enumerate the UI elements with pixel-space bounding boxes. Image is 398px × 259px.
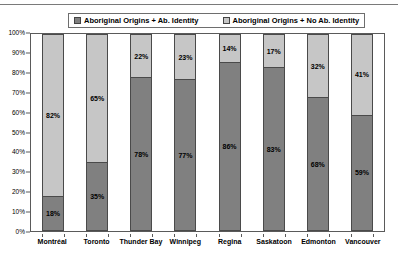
x-axis-tick-mark bbox=[263, 234, 264, 237]
bar-value-label: 32% bbox=[311, 63, 325, 70]
legend-entry-no-ab-identity: Aboriginal Origins + No Ab. Identity bbox=[223, 17, 360, 25]
bar-segment-ab-identity[interactable]: 18% bbox=[42, 196, 64, 231]
x-axis-tick-mark bbox=[108, 234, 109, 237]
stacked-bar-column[interactable]: 32%68% bbox=[307, 34, 329, 231]
x-axis-tick-mark bbox=[174, 234, 175, 237]
x-axis-tick-mark bbox=[373, 234, 374, 237]
top-divider-rule bbox=[0, 4, 398, 5]
x-axis: MontréalTorontoThunder BayWinnipegRegina… bbox=[30, 234, 385, 256]
plot-area: 82%18%65%35%22%78%23%77%14%86%17%83%32%6… bbox=[30, 33, 385, 232]
stacked-bar-column[interactable]: 82%18% bbox=[42, 34, 64, 231]
bar-value-label: 22% bbox=[134, 53, 148, 60]
bar-value-label: 68% bbox=[311, 161, 325, 168]
x-axis-tick-label: Edmonton bbox=[296, 234, 340, 245]
bar-value-label: 14% bbox=[223, 45, 237, 52]
bar-segment-ab-identity[interactable]: 86% bbox=[219, 62, 241, 231]
bar-segment-no-ab-identity[interactable]: 22% bbox=[130, 34, 152, 77]
legend-label-ab-identity: Aboriginal Origins + Ab. Identity bbox=[84, 17, 199, 25]
x-axis-tick-mark bbox=[64, 234, 65, 237]
bar-segment-no-ab-identity[interactable]: 32% bbox=[307, 34, 329, 97]
bar-value-label: 78% bbox=[134, 151, 148, 158]
y-axis-tick-label: 50% bbox=[12, 129, 25, 136]
bar-segment-no-ab-identity[interactable]: 14% bbox=[219, 34, 241, 62]
x-axis-tick-mark bbox=[285, 234, 286, 237]
bar-value-label: 65% bbox=[90, 95, 104, 102]
bar-segment-ab-identity[interactable]: 77% bbox=[174, 79, 196, 231]
x-axis-tick-mark bbox=[329, 234, 330, 237]
bar-value-label: 77% bbox=[178, 152, 192, 159]
y-axis-tick-label: 90% bbox=[12, 50, 25, 57]
bar-value-label: 86% bbox=[223, 143, 237, 150]
legend-swatch-icon-no-ab-identity bbox=[223, 17, 230, 24]
bar-segment-no-ab-identity[interactable]: 82% bbox=[42, 34, 64, 196]
x-axis-tick-label: Saskatoon bbox=[252, 234, 296, 245]
stacked-bar-column[interactable]: 22%78% bbox=[130, 34, 152, 231]
bar-segment-ab-identity[interactable]: 78% bbox=[130, 77, 152, 231]
x-axis-tick-mark bbox=[152, 234, 153, 237]
bar-value-label: 83% bbox=[267, 146, 281, 153]
bar-value-label: 17% bbox=[267, 48, 281, 55]
bar-segment-no-ab-identity[interactable]: 65% bbox=[86, 34, 108, 162]
stacked-bar-column[interactable]: 17%83% bbox=[263, 34, 285, 231]
bar-value-label: 41% bbox=[355, 71, 369, 78]
x-axis-tick-label: Regina bbox=[208, 234, 252, 245]
y-axis-tick-label: 30% bbox=[12, 169, 25, 176]
x-axis-tick-mark bbox=[307, 234, 308, 237]
bar-value-label: 35% bbox=[90, 193, 104, 200]
y-axis-tick-label: 40% bbox=[12, 149, 25, 156]
x-axis-tick-mark bbox=[196, 234, 197, 237]
chart-legend: Aboriginal Origins + Ab. Identity Aborig… bbox=[68, 13, 365, 28]
bar-segment-no-ab-identity[interactable]: 41% bbox=[351, 34, 373, 115]
stacked-bar-column[interactable]: 65%35% bbox=[86, 34, 108, 231]
x-axis-tick-mark bbox=[130, 234, 131, 237]
bar-segment-ab-identity[interactable]: 68% bbox=[307, 97, 329, 231]
y-axis-tick-label: 70% bbox=[12, 89, 25, 96]
legend-swatch-icon-ab-identity bbox=[74, 17, 81, 24]
bar-value-label: 23% bbox=[178, 54, 192, 61]
y-axis-tick-label: 60% bbox=[12, 109, 25, 116]
bar-segment-no-ab-identity[interactable]: 17% bbox=[263, 34, 285, 67]
y-axis-tick-label: 80% bbox=[12, 70, 25, 77]
bar-value-label: 18% bbox=[46, 210, 60, 217]
bar-segment-no-ab-identity[interactable]: 23% bbox=[174, 34, 196, 79]
x-axis-tick-mark bbox=[42, 234, 43, 237]
y-axis-tick-label: 10% bbox=[12, 209, 25, 216]
x-axis-tick-mark bbox=[351, 234, 352, 237]
x-axis-tick-mark bbox=[219, 234, 220, 237]
legend-label-no-ab-identity: Aboriginal Origins + No Ab. Identity bbox=[233, 17, 360, 25]
bar-segment-ab-identity[interactable]: 59% bbox=[351, 115, 373, 231]
x-axis-tick-mark bbox=[86, 234, 87, 237]
stacked-bar-column[interactable]: 41%59% bbox=[351, 34, 373, 231]
bar-value-label: 59% bbox=[355, 169, 369, 176]
y-axis-tick-label: 20% bbox=[12, 189, 25, 196]
x-axis-tick-label: Toronto bbox=[75, 234, 119, 245]
legend-entry-ab-identity: Aboriginal Origins + Ab. Identity bbox=[74, 17, 199, 25]
x-axis-tick-label: Winnipeg bbox=[163, 234, 207, 245]
x-axis-tick-label: Montréal bbox=[30, 234, 74, 245]
x-axis-tick-label: Thunder Bay bbox=[119, 234, 163, 245]
y-axis-tick-label: 100% bbox=[8, 30, 25, 37]
bar-segment-ab-identity[interactable]: 35% bbox=[86, 162, 108, 231]
stacked-bar-column[interactable]: 23%77% bbox=[174, 34, 196, 231]
x-axis-tick-mark bbox=[241, 234, 242, 237]
bar-value-label: 82% bbox=[46, 112, 60, 119]
y-axis: 0%10%20%30%40%50%60%70%80%90%100% bbox=[0, 33, 30, 232]
x-axis-tick-label: Vancouver bbox=[341, 234, 385, 245]
bar-segment-ab-identity[interactable]: 83% bbox=[263, 67, 285, 231]
y-axis-tick-label: 0% bbox=[16, 229, 25, 236]
stacked-bar-column[interactable]: 14%86% bbox=[219, 34, 241, 231]
